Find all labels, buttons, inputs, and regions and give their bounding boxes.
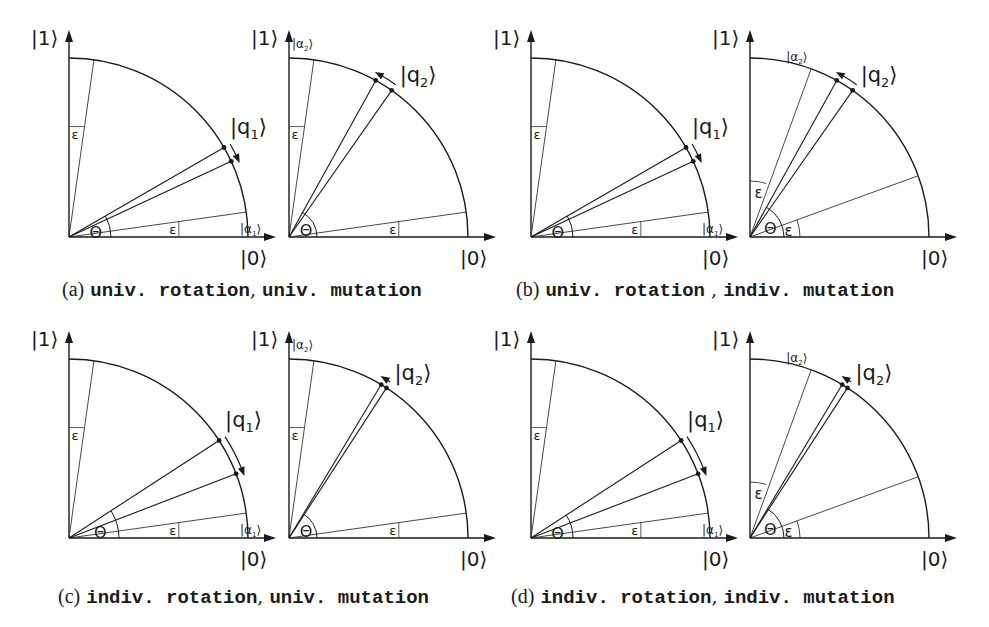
caption-tag: (d)	[511, 585, 534, 607]
ket-zero-label: |0⟩	[921, 547, 948, 571]
epsilon-boundary-high	[750, 370, 811, 538]
caption-c: (c) indiv. rotation, univ. mutation	[58, 585, 429, 609]
caption-rotation: univ. rotation	[545, 280, 705, 302]
qubit-vector-before	[750, 385, 842, 538]
caption-rotation: indiv. rotation	[86, 587, 257, 609]
caption-tag: (c)	[58, 585, 80, 607]
epsilon-angle-arc	[750, 482, 766, 484]
ket-one-label: |1⟩	[712, 327, 739, 351]
y-axis-arrow-icon	[746, 331, 754, 343]
unit-circle-arc	[750, 359, 929, 538]
caption-mutation: univ. mutation	[269, 587, 429, 609]
caption-separator: ,	[250, 278, 262, 300]
diagram-lines	[750, 337, 951, 538]
caption-b: (b) univ. rotation , indiv. mutation	[516, 278, 894, 302]
caption-mutation: indiv. mutation	[724, 587, 895, 609]
caption-separator: ,	[705, 278, 723, 300]
caption-rotation: univ. rotation	[90, 280, 250, 302]
qubit-vector-after	[750, 388, 847, 538]
caption-a: (a) univ. rotation, univ. mutation	[62, 278, 422, 302]
x-axis-arrow-icon	[945, 534, 957, 542]
qubit-point-icon	[845, 385, 850, 390]
caption-tag: (b)	[516, 278, 539, 300]
caption-tag: (a)	[62, 278, 84, 300]
alpha-two-label: |α2⟩	[786, 351, 807, 367]
panel-d-right: Θεε|1⟩|0⟩|α2⟩|q2⟩	[0, 0, 989, 627]
qubit-point-icon	[840, 382, 845, 387]
caption-mutation: indiv. mutation	[723, 280, 894, 302]
quantum-rotation-mutation-figure: Θεε|1⟩|0⟩|α1⟩|q1⟩Θεε|1⟩|0⟩|α2⟩|q2⟩Θεε|1⟩…	[0, 0, 989, 627]
caption-mutation: univ. mutation	[262, 280, 422, 302]
theta-label: Θ	[764, 520, 777, 539]
qubit-two-label: |q2⟩	[855, 361, 892, 388]
caption-separator: ,	[257, 585, 269, 607]
caption-d: (d) indiv. rotation, indiv. mutation	[511, 585, 895, 609]
epsilon-label-x: ε	[784, 523, 792, 541]
caption-separator: ,	[711, 585, 723, 607]
epsilon-label-y: ε	[755, 485, 763, 503]
caption-rotation: indiv. rotation	[540, 587, 711, 609]
epsilon-angle-arc	[797, 521, 800, 538]
